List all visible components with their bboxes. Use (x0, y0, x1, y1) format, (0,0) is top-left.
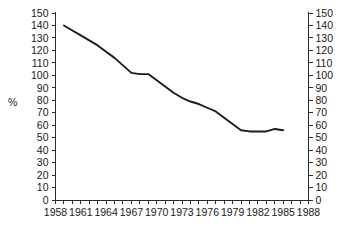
y-tick-label-right: 80 (316, 94, 328, 106)
line-chart: 0102030405060708090100110120130140150 01… (0, 0, 364, 240)
y-tick-label-left: 60 (37, 119, 49, 131)
y-tick-label-right: 40 (316, 144, 328, 156)
y-tick-label-left: 30 (37, 156, 49, 168)
y-tick-label-right: 150 (316, 7, 334, 19)
x-tick-label: 1988 (297, 206, 321, 218)
chart-container: 0102030405060708090100110120130140150 01… (0, 0, 364, 240)
y-tick-label-right: 90 (316, 82, 328, 94)
y-tick-label-right: 140 (316, 19, 334, 31)
x-tick-label: 1982 (246, 206, 270, 218)
y-tick-label-right: 100 (316, 69, 334, 81)
y-tick-label-right: 20 (316, 169, 328, 181)
x-axis-ticks (56, 200, 309, 204)
x-tick-label: 1979 (221, 206, 245, 218)
y-axis-left-labels: 0102030405060708090100110120130140150 (31, 7, 49, 206)
x-tick-label: 1973 (170, 206, 194, 218)
y-tick-label-left: 10 (37, 181, 49, 193)
y-tick-label-right: 10 (316, 181, 328, 193)
y-tick-label-left: 80 (37, 94, 49, 106)
y-tick-label-right: 110 (316, 57, 333, 69)
x-tick-label: 1961 (69, 206, 93, 218)
y-tick-label-right: 130 (316, 32, 334, 44)
x-tick-label: 1958 (44, 206, 68, 218)
y-tick-label-left: 0 (43, 194, 49, 206)
y-axis-title: % (8, 96, 17, 108)
y-tick-label-left: 130 (31, 32, 49, 44)
y-tick-label-right: 0 (316, 194, 322, 206)
y-tick-label-left: 50 (37, 131, 49, 143)
y-axis-right-labels: 0102030405060708090100110120130140150 (316, 7, 334, 206)
y-tick-label-right: 30 (316, 156, 328, 168)
y-tick-label-left: 150 (31, 7, 49, 19)
y-tick-label-left: 100 (31, 69, 49, 81)
x-tick-label: 1967 (120, 206, 144, 218)
x-tick-label: 1970 (145, 206, 169, 218)
y-tick-label-left: 40 (37, 144, 49, 156)
y-tick-label-left: 110 (32, 57, 49, 69)
x-tick-label: 1985 (272, 206, 296, 218)
y-tick-label-left: 70 (37, 106, 49, 118)
y-tick-label-left: 140 (31, 19, 49, 31)
y-axis-right-ticks (309, 13, 313, 200)
plot-axes (56, 12, 309, 200)
x-tick-label: 1976 (196, 206, 220, 218)
y-tick-label-right: 120 (316, 44, 334, 56)
y-tick-label-right: 50 (316, 131, 328, 143)
y-tick-label-left: 120 (31, 44, 49, 56)
x-tick-label: 1964 (94, 206, 118, 218)
y-tick-label-left: 20 (37, 169, 49, 181)
x-axis-labels: 1958196119641967197019731976197919821985… (44, 206, 321, 218)
y-tick-label-right: 60 (316, 119, 328, 131)
y-tick-label-right: 70 (316, 106, 328, 118)
y-axis-left-ticks (52, 13, 56, 200)
y-tick-label-left: 90 (37, 82, 49, 94)
data-series-line (64, 25, 283, 131)
